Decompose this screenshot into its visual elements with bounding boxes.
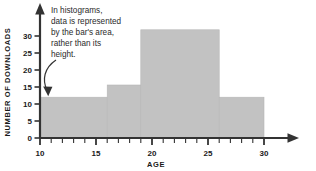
x-tick-label-15: 15 xyxy=(92,149,101,158)
bar-16-19 xyxy=(107,85,141,138)
y-tick-label-25: 25 xyxy=(23,49,32,58)
y-tick-label-30: 30 xyxy=(23,32,32,41)
bar-19-26 xyxy=(141,30,219,138)
y-tick-label-10: 10 xyxy=(23,100,32,109)
annotation-line-1: In histograms, xyxy=(51,6,102,15)
x-axis-title: AGE xyxy=(147,160,165,169)
y-axis-title: NUMBER OF DOWNLOADS xyxy=(3,28,12,137)
bar-10-16 xyxy=(40,97,107,138)
y-tick-label-15: 15 xyxy=(23,83,32,92)
x-tick-label-20: 20 xyxy=(148,149,157,158)
bar-26-30 xyxy=(219,97,264,138)
annotation-line-4: rather than its xyxy=(51,39,101,48)
x-tick-label-30: 30 xyxy=(260,149,269,158)
annotation-line-5: height. xyxy=(51,50,76,59)
y-tick-label-20: 20 xyxy=(23,66,32,75)
y-tick-label-5: 5 xyxy=(28,117,33,126)
x-tick-label-10: 10 xyxy=(36,149,45,158)
histogram-figure: 0 5 10 15 20 25 30 NUMBER OF DOWNLOADS xyxy=(0,0,316,171)
annotation-line-2: data is represented xyxy=(51,17,122,26)
x-tick-label-25: 25 xyxy=(204,149,213,158)
y-tick-label-0: 0 xyxy=(28,134,33,143)
annotation-line-3: by the bar's area, xyxy=(51,28,114,37)
histogram-svg: 0 5 10 15 20 25 30 NUMBER OF DOWNLOADS xyxy=(0,0,316,171)
